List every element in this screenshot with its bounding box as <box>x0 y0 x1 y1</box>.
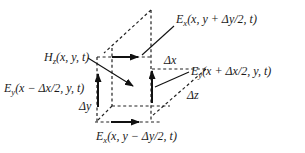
ey-right-leader-line <box>155 72 189 87</box>
ex-top-leader-line <box>142 26 174 55</box>
ey-left-label: Ey(x − Δx/2, y, t) <box>3 81 84 97</box>
text-labels: Ex(x, y + Δy/2, t) Hz(x, y, t) Ey(x − Δx… <box>3 12 271 145</box>
ex-top-label: Ex(x, y + Δy/2, t) <box>175 12 257 28</box>
ey-right-label: Ey(x + Δx/2, y, t) <box>190 64 271 80</box>
ex-bottom-label: Ex(x, y − Δy/2, t) <box>95 129 177 145</box>
upper-depth-diagonal <box>104 10 151 53</box>
dashed-cell-edges <box>95 10 206 122</box>
hz-pointer-arrow-icon <box>88 58 133 86</box>
delta-y-label: Δy <box>78 99 92 113</box>
delta-x-label: Δx <box>163 53 177 67</box>
delta-z-label: Δz <box>186 88 199 102</box>
corner-depth-diagonal <box>98 106 112 120</box>
yee-cell-diagram: Ex(x, y + Δy/2, t) Hz(x, y, t) Ey(x − Δx… <box>0 0 305 153</box>
hz-label: Hz(x, y, t) <box>43 50 89 66</box>
yee-cell-figure: Ex(x, y + Δy/2, t) Hz(x, y, t) Ey(x − Δx… <box>0 0 305 153</box>
